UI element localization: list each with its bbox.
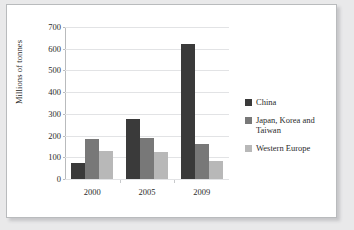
bar [85, 139, 99, 179]
bar [154, 152, 168, 179]
legend-item: China [245, 97, 337, 108]
y-axis-tick-label: 200 [27, 131, 61, 141]
legend-item-label: Western Europe [256, 143, 310, 154]
legend-item-label: Japan, Korea and Taiwan [256, 115, 337, 136]
gridline [65, 179, 229, 180]
legend-swatch-icon [245, 117, 252, 124]
y-axis-tick-label: 600 [27, 44, 61, 54]
y-axis-tick-label: 400 [27, 87, 61, 97]
bar-chart: Millions of tonnes 010020030040050060070… [7, 5, 338, 219]
plot-area [65, 27, 229, 179]
x-axis-tick-label: 2005 [124, 187, 170, 197]
y-axis-tick-label: 300 [27, 109, 61, 119]
legend-item: Western Europe [245, 143, 337, 154]
x-axis-tick-mark [174, 180, 175, 183]
bar-group [120, 27, 175, 179]
bar [126, 119, 140, 179]
legend-swatch-icon [245, 145, 252, 152]
y-axis-tick-label: 700 [27, 22, 61, 32]
bar [195, 144, 209, 179]
x-axis-tick-label: 2009 [179, 187, 225, 197]
bar [140, 138, 154, 179]
y-axis-tick-label: 500 [27, 65, 61, 75]
y-axis-tick-label: 100 [27, 152, 61, 162]
x-axis-tick-label: 2000 [69, 187, 115, 197]
chart-legend: ChinaJapan, Korea and TaiwanWestern Euro… [245, 97, 337, 160]
bar [181, 44, 195, 179]
x-axis-tick-mark [120, 180, 121, 183]
bar-group [65, 27, 120, 179]
legend-item-label: China [256, 97, 276, 108]
bar [209, 161, 223, 179]
chart-page: Millions of tonnes 010020030040050060070… [0, 0, 354, 230]
bar [99, 151, 113, 179]
bar [71, 163, 85, 179]
chart-frame: Millions of tonnes 010020030040050060070… [6, 4, 337, 218]
legend-swatch-icon [245, 99, 252, 106]
y-axis-tick-label: 0 [27, 174, 61, 184]
legend-item: Japan, Korea and Taiwan [245, 115, 337, 136]
bar-group [174, 27, 229, 179]
y-axis-tick-labels: 0100200300400500600700 [21, 27, 61, 179]
